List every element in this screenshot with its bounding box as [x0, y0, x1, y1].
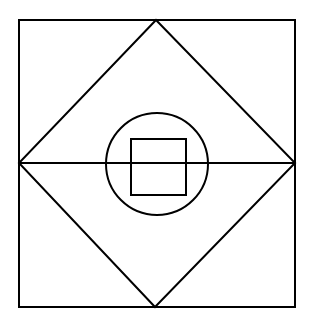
geometry-diagram [0, 0, 314, 325]
